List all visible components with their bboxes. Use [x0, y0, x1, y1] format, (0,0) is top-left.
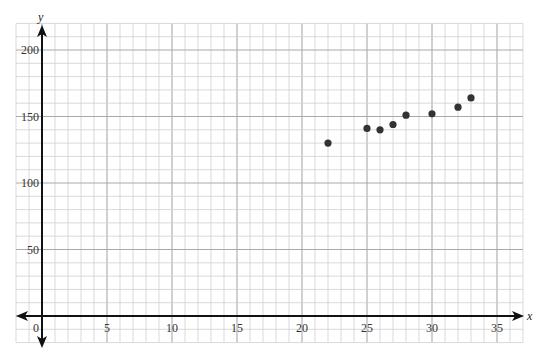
x-tick-label: 10	[166, 321, 178, 335]
x-tick-label: 5	[104, 321, 110, 335]
x-tick-label: 15	[231, 321, 243, 335]
tick-labels: 0510152025303550100150200	[21, 43, 503, 335]
data-point	[363, 125, 370, 132]
x-tick-label: 20	[296, 321, 308, 335]
data-point	[454, 104, 461, 111]
y-tick-label: 200	[21, 43, 39, 57]
y-tick-label: 150	[21, 110, 39, 124]
data-point	[389, 121, 396, 128]
grid	[16, 23, 523, 342]
y-tick-label: 50	[27, 243, 39, 257]
x-tick-label: 25	[361, 321, 373, 335]
y-tick-label: 100	[21, 176, 39, 190]
scatter-chart: x y 0510152025303550100150200	[0, 0, 546, 362]
x-tick-label: 35	[491, 321, 503, 335]
data-point	[428, 110, 435, 117]
x-tick-label: 30	[426, 321, 438, 335]
x-tick-label: 0	[33, 321, 39, 335]
data-points	[324, 94, 474, 146]
axes: x y	[16, 10, 533, 348]
data-point	[376, 126, 383, 133]
data-point	[467, 94, 474, 101]
x-axis-label: x	[526, 309, 533, 323]
y-axis-label: y	[37, 10, 44, 24]
data-point	[402, 112, 409, 119]
data-point	[324, 140, 331, 147]
